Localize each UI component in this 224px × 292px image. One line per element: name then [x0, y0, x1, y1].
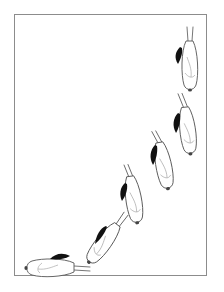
rodent-figure-1	[182, 27, 198, 92]
figure-sequence	[0, 0, 224, 292]
black-shape-6	[50, 254, 70, 260]
rodent-figure-5	[82, 209, 133, 268]
black-shape-2	[174, 113, 181, 133]
black-shape-1	[176, 47, 183, 64]
rodent-figure-6	[24, 259, 90, 277]
